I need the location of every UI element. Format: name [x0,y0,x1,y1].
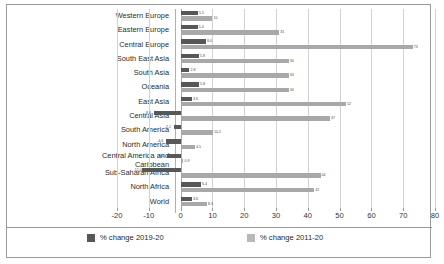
axis-tick-label: 60 [356,211,386,220]
bar-value-label: 8.3 [208,202,213,206]
bar-value-label: 34 [290,59,294,63]
axis-tick-label: 40 [293,211,323,220]
bar-value-label: 3.6 [193,197,198,201]
gridline [435,9,436,209]
legend-item[interactable]: % change 2019-20 [87,233,164,242]
bar-light [181,159,184,163]
bar-light [181,188,315,192]
bar-dark [142,168,180,172]
bar-dark [181,182,201,186]
axis-tick-label: -20 [102,211,132,220]
bar-value-label: 73 [414,45,418,49]
axis-tick-label: 50 [325,211,355,220]
bar-value-label: 42 [315,188,319,192]
legend-divider [7,227,432,228]
bar-value-label: 10.2 [214,130,221,134]
bar-row: -4.64.5 [117,139,435,153]
bar-value-label: 5.8 [200,54,205,58]
bar-light [181,116,330,120]
bar-value-label: 34 [290,88,294,92]
bar-row: -12.044 [117,167,435,181]
bar-value-label: -8.4 [145,111,151,115]
bar-dark [154,111,181,115]
bar-row: 2.834 [117,67,435,81]
legend-swatch [247,234,255,242]
legend-label: % change 2019-20 [100,233,164,242]
bar-light [181,88,289,92]
bar-dark [167,154,181,158]
bar-dark [181,11,198,15]
axis-tick-label: 0 [166,211,196,220]
bar-dark [181,54,199,58]
bar-value-label: 31 [280,30,284,34]
bar-light [181,102,346,106]
bar-dark [181,197,192,201]
bar-row: 5.510 [117,10,435,24]
chart-frame: Western EuropeEastern EuropeCentral Euro… [6,4,431,258]
bar-value-label: 5.8 [200,82,205,86]
value-axis-tick-labels: -20-1001020304050607080 [7,211,432,225]
bar-light [181,202,207,206]
bar-value-label: 5.5 [199,11,204,15]
bar-value-label: 52 [347,102,351,106]
bar-value-label: 34 [290,73,294,77]
bar-dark [166,139,181,143]
bar-light [181,16,213,20]
axis-tick-label: 10 [197,211,227,220]
bar-row: -2.110.2 [117,124,435,138]
legend-swatch [87,234,95,242]
bar-light [181,173,321,177]
bar-light [181,30,280,34]
bar-dark [181,39,206,43]
axis-tick-label: 30 [261,211,291,220]
axis-tick-label: 80 [420,211,444,220]
bar-value-label: 6.4 [202,182,207,186]
bar-value-label: -2.1 [165,125,171,129]
bar-dark [181,97,192,101]
axis-tick-label: 20 [229,211,259,220]
chart-legend: % change 2019-20% change 2011-20 [7,233,432,253]
bar-value-label: 44 [322,173,326,177]
bar-value-label: 47 [331,116,335,120]
bar-dark [181,68,190,72]
bar-row: 6.442 [117,182,435,196]
bar-light [181,73,289,77]
bar-row: 8.073 [117,39,435,53]
bar-value-label: -12.0 [133,168,141,172]
bar-light [181,145,195,149]
bar-dark [181,25,198,29]
axis-tick-label: -10 [134,211,164,220]
bar-light [181,45,413,49]
bar-value-label: 2.8 [191,68,196,72]
plot-area: Western EuropeEastern EuropeCentral Euro… [7,5,432,223]
bar-row: 5.834 [117,82,435,96]
legend-label: % change 2011-20 [260,233,323,242]
bar-value-label: -4.6 [157,139,163,143]
bar-row: -8.447 [117,110,435,124]
bar-dark [174,125,181,129]
bar-value-label: 10 [213,16,217,20]
bar-dark [181,82,199,86]
bar-row: 3.652 [117,96,435,110]
bar-row: 5.431 [117,24,435,38]
bar-series-group: 5.5105.4318.0735.8342.8345.8343.652-8.44… [117,9,435,209]
bar-row: -4.40.9 [117,153,435,167]
axis-tick-label: 70 [388,211,418,220]
legend-item[interactable]: % change 2011-20 [247,233,323,242]
bar-light [181,59,289,63]
bar-value-label: 4.5 [196,145,201,149]
bar-light [181,130,213,134]
bar-value-label: 8.0 [207,39,212,43]
bar-row: 5.834 [117,53,435,67]
bar-value-label: -4.4 [158,154,164,158]
bar-value-label: 0.9 [184,159,189,163]
bar-value-label: 5.4 [199,25,204,29]
bar-value-label: 3.6 [193,97,198,101]
